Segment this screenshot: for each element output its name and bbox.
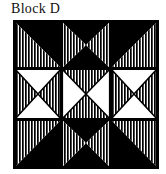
cell-middle-left <box>15 69 61 119</box>
quilt-block-svg <box>13 20 159 169</box>
cell-top-center <box>62 22 110 68</box>
block-caption: Block D <box>11 0 151 18</box>
block-figure: Block D <box>0 0 166 174</box>
cell-bottom-left <box>15 120 61 167</box>
cell-center <box>62 69 110 119</box>
cell-top-right <box>111 22 157 68</box>
cell-bottom-center <box>62 120 110 167</box>
quilt-block-image <box>13 20 159 169</box>
cell-bottom-right <box>111 120 157 167</box>
cell-middle-right <box>111 69 157 119</box>
cell-top-left <box>15 22 61 68</box>
